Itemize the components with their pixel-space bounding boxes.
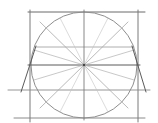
tangent-right <box>132 46 146 92</box>
sketch-canvas <box>0 0 158 123</box>
tangent-left <box>21 46 36 92</box>
center-point <box>83 64 85 66</box>
